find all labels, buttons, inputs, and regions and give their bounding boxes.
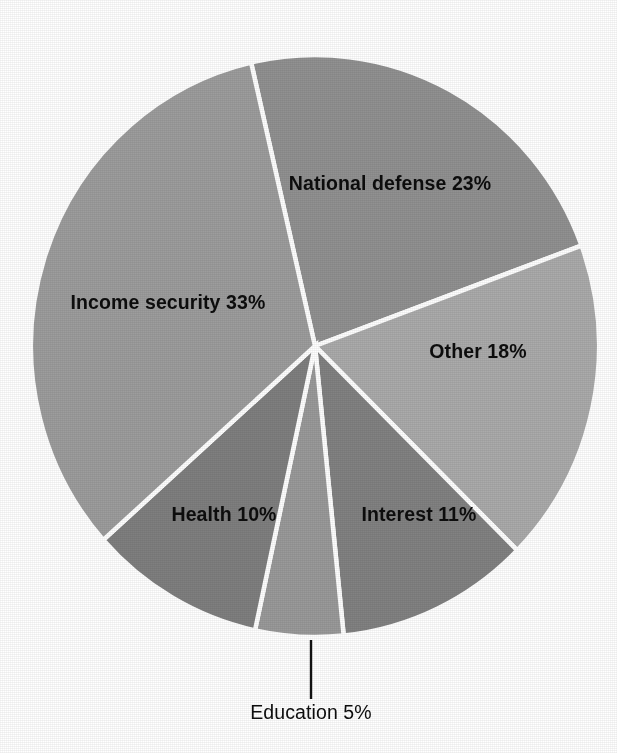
slice-label-interest: Interest 11%	[361, 503, 476, 525]
pie-chart: National defense 23%Other 18%Interest 11…	[0, 0, 617, 753]
slice-label-health: Health 10%	[171, 503, 276, 525]
slice-label-national-defense: National defense 23%	[289, 172, 491, 194]
slice-label-income-security: Income security 33%	[71, 291, 266, 313]
pie-chart-canvas: National defense 23%Other 18%Interest 11…	[0, 0, 617, 753]
slice-label-education: Education 5%	[250, 701, 372, 723]
slice-label-other: Other 18%	[429, 340, 526, 362]
